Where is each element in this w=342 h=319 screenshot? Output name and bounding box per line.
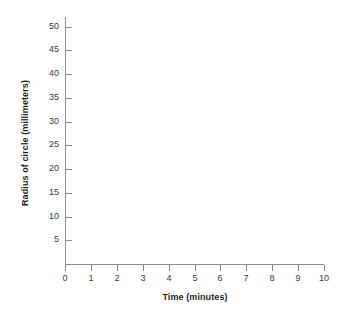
x-axis-tick-mark <box>117 265 118 271</box>
x-axis-tick-label: 2 <box>105 273 129 283</box>
y-axis-tick-label: 40 <box>49 69 59 78</box>
x-axis-tick-mark <box>169 265 170 271</box>
x-axis-tick-label: 0 <box>53 273 77 283</box>
y-axis-tick-mark <box>66 145 72 146</box>
y-axis-tick-label: 20 <box>49 164 59 173</box>
x-axis-tick-mark <box>65 265 66 271</box>
y-axis-tick-label: 10 <box>49 212 59 221</box>
x-axis-tick-label: 5 <box>183 273 207 283</box>
y-axis-tick-mark <box>66 50 72 51</box>
y-axis-tick-label: 50 <box>49 22 59 31</box>
x-axis-tick-mark <box>298 265 299 271</box>
y-axis-tick-label: 15 <box>49 188 59 197</box>
x-axis-tick-label: 4 <box>157 273 181 283</box>
y-axis-tick-label: 5 <box>54 235 59 244</box>
y-axis-tick-label: 30 <box>49 117 59 126</box>
x-axis-tick-mark <box>195 265 196 271</box>
y-axis-tick-mark <box>66 169 72 170</box>
x-axis-tick-mark <box>324 265 325 271</box>
x-axis-tick-mark <box>91 265 92 271</box>
y-axis-tick-mark <box>66 74 72 75</box>
y-axis-tick-label: 25 <box>49 140 59 149</box>
y-axis-tick-label: 35 <box>49 93 59 102</box>
x-axis-tick-label: 6 <box>208 273 232 283</box>
x-axis-tick-mark <box>220 265 221 271</box>
x-axis-tick-mark <box>246 265 247 271</box>
y-axis-tick-mark <box>66 98 72 99</box>
y-axis-tick-mark <box>66 217 72 218</box>
x-axis-tick-label: 9 <box>286 273 310 283</box>
x-axis-tick-label: 3 <box>131 273 155 283</box>
x-axis-title: Time (minutes) <box>162 292 227 302</box>
x-axis-tick-label: 10 <box>312 273 336 283</box>
y-axis-tick-mark <box>66 193 72 194</box>
y-axis-tick-label: 45 <box>49 45 59 54</box>
x-axis-tick-mark <box>143 265 144 271</box>
chart-container: 5101520253035404550 012345678910 Radius … <box>0 0 342 319</box>
y-axis-tick-mark <box>66 122 72 123</box>
x-axis-tick-label: 7 <box>234 273 258 283</box>
x-axis-tick-label: 8 <box>260 273 284 283</box>
plot-area <box>66 17 324 264</box>
x-axis-tick-label: 1 <box>79 273 103 283</box>
y-axis-tick-mark <box>66 27 72 28</box>
x-axis-tick-mark <box>272 265 273 271</box>
y-axis-title: Radius of circle (millimeters) <box>20 80 30 206</box>
y-axis-tick-mark <box>66 240 72 241</box>
